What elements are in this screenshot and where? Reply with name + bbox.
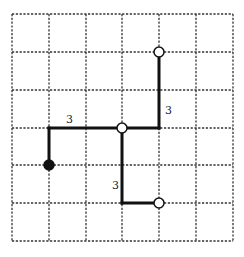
label-horizontal-segment: 3 — [66, 113, 73, 126]
path-segments — [49, 52, 159, 203]
grid-path-diagram: 3 3 3 — [0, 0, 244, 257]
segment-labels: 3 3 3 — [66, 104, 172, 192]
top-end-node-open-circle-icon — [154, 47, 164, 57]
start-node-filled-dot-icon — [44, 160, 54, 170]
bottom-end-node-open-circle-icon — [154, 198, 164, 208]
junction-node-open-circle-icon — [117, 123, 127, 133]
label-lower-vertical-segment: 3 — [112, 179, 119, 192]
label-upper-vertical-segment: 3 — [165, 104, 172, 117]
